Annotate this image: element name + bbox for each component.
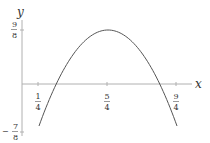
svg-text:−: − — [2, 127, 9, 136]
x-tick-5-4: 5 4 — [104, 82, 110, 112]
y-axis-label: y — [16, 5, 24, 19]
svg-text:9: 9 — [12, 20, 17, 29]
chart: y x 1 4 5 4 9 4 9 8 − 7 8 — [0, 0, 210, 143]
svg-text:5: 5 — [105, 92, 110, 101]
svg-text:9: 9 — [174, 92, 179, 101]
svg-text:4: 4 — [36, 103, 41, 112]
x-tick-9-4: 9 4 — [173, 82, 179, 112]
svg-text:4: 4 — [105, 103, 110, 112]
svg-text:7: 7 — [13, 122, 18, 131]
svg-text:8: 8 — [12, 31, 17, 40]
y-tick-neg-7-8: − 7 8 — [2, 122, 24, 142]
x-axis-label: x — [195, 77, 202, 91]
svg-text:1: 1 — [36, 92, 41, 101]
x-tick-1-4: 1 4 — [35, 82, 41, 112]
svg-text:4: 4 — [174, 103, 179, 112]
svg-text:8: 8 — [13, 133, 18, 142]
